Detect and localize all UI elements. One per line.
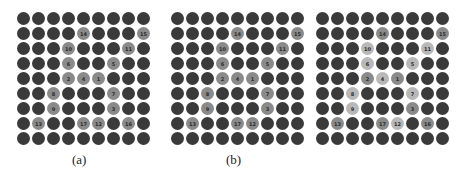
circle	[331, 132, 344, 145]
circle	[107, 27, 120, 40]
caption-b: (b)	[226, 152, 241, 168]
highlighted-circle: 8	[346, 87, 359, 100]
circle	[346, 57, 359, 70]
highlighted-circle: 4	[231, 72, 244, 85]
circle	[316, 132, 329, 145]
circle	[171, 102, 184, 115]
circle	[421, 102, 434, 115]
circle	[107, 72, 120, 85]
circle	[276, 117, 289, 130]
circle	[436, 57, 449, 70]
circle	[47, 42, 60, 55]
highlighted-circle: 14	[376, 27, 389, 40]
panel-b: 14151011652418793131712	[171, 12, 305, 146]
circle	[186, 42, 199, 55]
circle	[92, 27, 105, 40]
circle	[107, 117, 120, 130]
circle	[391, 57, 404, 70]
circle-grid: 1415101165241879313171216	[17, 12, 151, 146]
circle	[316, 102, 329, 115]
circle	[276, 72, 289, 85]
circle	[316, 72, 329, 85]
circle	[391, 87, 404, 100]
circle	[316, 42, 329, 55]
circle	[171, 12, 184, 25]
circle	[436, 132, 449, 145]
circle	[17, 42, 30, 55]
circle	[231, 12, 244, 25]
circle	[376, 132, 389, 145]
circle	[436, 42, 449, 55]
circle	[171, 117, 184, 130]
circle	[201, 27, 214, 40]
circle	[171, 57, 184, 70]
circle	[186, 87, 199, 100]
highlighted-circle: 7	[107, 87, 120, 100]
circle	[201, 12, 214, 25]
highlighted-circle: 13	[186, 117, 199, 130]
circle	[346, 42, 359, 55]
highlighted-circle: 4	[376, 72, 389, 85]
circle	[122, 87, 135, 100]
circle	[406, 12, 419, 25]
circle	[291, 42, 304, 55]
circle	[32, 57, 45, 70]
circle	[17, 72, 30, 85]
circle	[47, 132, 60, 145]
circle	[122, 27, 135, 40]
circle	[231, 132, 244, 145]
circle	[137, 102, 150, 115]
highlighted-circle: 5	[406, 57, 419, 70]
highlighted-circle: 6	[62, 57, 75, 70]
circle	[391, 27, 404, 40]
circle	[331, 12, 344, 25]
circle	[316, 117, 329, 130]
circle	[137, 12, 150, 25]
circle	[406, 117, 419, 130]
highlighted-circle: 9	[346, 102, 359, 115]
circle	[77, 102, 90, 115]
highlighted-circle: 11	[122, 42, 135, 55]
highlighted-circle: 7	[406, 87, 419, 100]
circle	[291, 72, 304, 85]
circle	[421, 27, 434, 40]
circle	[331, 102, 344, 115]
circle	[261, 42, 274, 55]
circle	[276, 12, 289, 25]
circle	[276, 102, 289, 115]
highlighted-circle: 3	[107, 102, 120, 115]
highlighted-circle: 15	[436, 27, 449, 40]
highlighted-circle: 16	[421, 117, 434, 130]
circle	[122, 102, 135, 115]
circle	[291, 117, 304, 130]
circle	[361, 102, 374, 115]
highlighted-circle: 8	[201, 87, 214, 100]
circle-grid: 1415101165241879313171216	[316, 12, 450, 146]
circle	[32, 72, 45, 85]
circle	[376, 57, 389, 70]
circle	[291, 12, 304, 25]
circle	[246, 27, 259, 40]
circle	[92, 57, 105, 70]
circle	[17, 132, 30, 145]
circle	[201, 72, 214, 85]
highlighted-circle: 2	[361, 72, 374, 85]
circle	[406, 132, 419, 145]
highlighted-circle: 1	[246, 72, 259, 85]
highlighted-circle: 15	[291, 27, 304, 40]
circle	[17, 117, 30, 130]
circle	[246, 132, 259, 145]
highlighted-circle: 12	[92, 117, 105, 130]
circle	[122, 57, 135, 70]
highlighted-circle: 7	[261, 87, 274, 100]
circle	[421, 12, 434, 25]
circle	[32, 87, 45, 100]
circle	[92, 87, 105, 100]
highlighted-circle: 15	[137, 27, 150, 40]
circle	[261, 132, 274, 145]
circle	[107, 132, 120, 145]
circle	[186, 72, 199, 85]
highlighted-circle: 5	[261, 57, 274, 70]
highlighted-circle: 8	[47, 87, 60, 100]
circle	[361, 132, 374, 145]
